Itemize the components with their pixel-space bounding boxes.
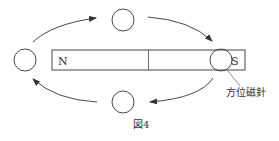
compass-top [112, 9, 134, 31]
magnet-compass-diagram: N S 方位磁針 図4 [0, 0, 279, 141]
arrow-bottom-to-left [33, 79, 97, 102]
compass-right [210, 49, 232, 71]
compass-bottom [112, 91, 134, 113]
compass-leader-line [227, 70, 240, 86]
bar-magnet [52, 50, 245, 70]
compass-left [14, 49, 36, 71]
arrow-right-to-bottom [150, 78, 213, 102]
compass-label: 方位磁針 [226, 86, 266, 98]
figure-caption: 図4 [133, 119, 149, 130]
arrow-left-to-top [33, 18, 96, 42]
arrow-top-to-right [148, 17, 212, 41]
north-pole-label: N [58, 55, 68, 68]
